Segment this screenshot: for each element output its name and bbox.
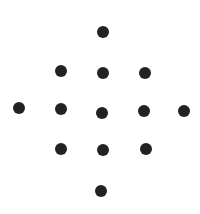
dot (55, 103, 67, 115)
dot (140, 143, 152, 155)
dot (138, 105, 150, 117)
dot (139, 67, 151, 79)
dot (97, 144, 109, 156)
dot (55, 65, 67, 77)
dot (178, 105, 190, 117)
dot (13, 102, 25, 114)
dot-diagram-canvas (0, 0, 200, 214)
dot (55, 143, 67, 155)
dot (95, 185, 107, 197)
dot (97, 26, 109, 38)
dot (97, 67, 109, 79)
dot (96, 107, 108, 119)
